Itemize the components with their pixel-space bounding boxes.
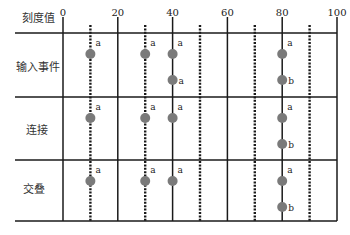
- event-label: a: [150, 165, 156, 175]
- event-label: b: [288, 76, 294, 86]
- event-marker: [85, 113, 95, 123]
- event-label: a: [150, 102, 156, 112]
- event-marker: [85, 176, 95, 186]
- tick-label: 20: [111, 7, 124, 18]
- event-label: a: [287, 102, 293, 112]
- event-label: a: [287, 38, 293, 48]
- event-label: b: [288, 140, 294, 150]
- event-label: a: [95, 38, 101, 48]
- tick-label: 0: [60, 7, 66, 18]
- event-marker: [140, 113, 150, 123]
- event-marker: [277, 176, 287, 186]
- tick-label: 40: [166, 7, 179, 18]
- event-marker: [168, 176, 178, 186]
- event-marker: [168, 49, 178, 59]
- event-label: a: [150, 38, 156, 48]
- event-label: a: [178, 165, 184, 175]
- event-marker: [140, 49, 150, 59]
- event-label: a: [178, 102, 184, 112]
- event-marker: [277, 202, 287, 212]
- event-marker: [140, 176, 150, 186]
- timeline-diagram: 刻度值 输入事件 连接 交叠 020406080100aaaaabaaaabaa…: [0, 0, 350, 235]
- event-label: a: [95, 165, 101, 175]
- event-marker: [277, 113, 287, 123]
- event-label: a: [287, 165, 293, 175]
- diagram-canvas: 020406080100aaaaabaaaabaaaab: [0, 0, 350, 235]
- tick-label: 60: [221, 7, 234, 18]
- tick-label: 100: [327, 7, 346, 18]
- event-marker: [277, 49, 287, 59]
- event-marker: [168, 113, 178, 123]
- tick-label: 80: [276, 7, 289, 18]
- event-label: a: [178, 38, 184, 48]
- event-marker: [277, 75, 287, 85]
- event-marker: [168, 75, 178, 85]
- event-label: b: [288, 203, 294, 213]
- event-marker: [277, 139, 287, 149]
- event-label: a: [179, 76, 185, 86]
- event-marker: [85, 49, 95, 59]
- event-label: a: [95, 102, 101, 112]
